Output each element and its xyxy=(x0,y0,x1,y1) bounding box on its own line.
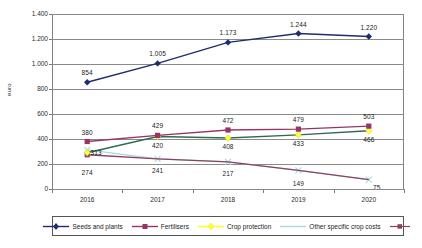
data-label: 149 xyxy=(293,180,304,187)
data-label: 472 xyxy=(222,117,233,124)
data-label: 420 xyxy=(152,142,163,149)
legend-key-diamond-icon xyxy=(43,222,69,231)
data-label: 380 xyxy=(82,129,93,136)
legend-key-line-icon xyxy=(280,222,306,231)
x-tick-label: 2020 xyxy=(343,196,395,203)
y-tick-label: 1.400 xyxy=(4,10,48,17)
series-other-specific-crop-costs xyxy=(84,147,372,183)
data-label: 429 xyxy=(152,122,163,129)
y-tick-label: 600 xyxy=(4,110,48,117)
legend-item[interactable]: Fertilisers xyxy=(132,222,189,231)
chart-legend: Seeds and plants Fertilisers Crop protec… xyxy=(52,216,404,236)
data-label: 217 xyxy=(222,170,233,177)
legend-key-diamond-icon xyxy=(198,222,224,231)
x-tick-label: 2017 xyxy=(132,196,184,203)
legend-item[interactable]: Other specific crop costs xyxy=(280,222,380,231)
data-label: 433 xyxy=(293,140,304,147)
plot-area: 02004006008001.0001.2001.400 20162017201… xyxy=(52,14,404,189)
data-label: 241 xyxy=(152,167,163,174)
data-label: 408 xyxy=(222,143,233,150)
y-tick-label: 800 xyxy=(4,85,48,92)
legend-label: Crop protection xyxy=(227,223,271,230)
data-label: 854 xyxy=(82,69,93,76)
data-label: 1.173 xyxy=(220,29,237,36)
legend-item-unlabeled[interactable] xyxy=(390,222,413,231)
legend-label: Other specific crop costs xyxy=(309,223,380,230)
legend-label: Seeds and plants xyxy=(72,223,122,230)
legend-key-square-icon xyxy=(132,222,158,231)
series-seeds-and-plants xyxy=(84,30,372,85)
y-tick-label: 1.000 xyxy=(4,60,48,67)
data-label: 503 xyxy=(363,113,374,120)
legend-item[interactable]: Crop protection xyxy=(198,222,271,231)
legend-label: Fertilisers xyxy=(161,223,189,230)
y-tick-label: 200 xyxy=(4,160,48,167)
data-label: 1.005 xyxy=(149,50,166,57)
data-label: 479 xyxy=(293,116,304,123)
y-tick-label: 1.200 xyxy=(4,35,48,42)
data-label: 466 xyxy=(363,136,374,143)
data-label: 274 xyxy=(82,169,93,176)
y-tick-label: 0 xyxy=(4,185,48,192)
x-tick-label: 2016 xyxy=(61,196,113,203)
legend-key-square-icon xyxy=(390,222,410,231)
y-tick-label: 400 xyxy=(4,135,48,142)
data-label: 1.220 xyxy=(360,24,377,31)
chart-container: euro 02004006008001.0001.2001.400 201620… xyxy=(0,0,422,248)
data-label: 1.244 xyxy=(290,21,307,28)
legend-item[interactable]: Seeds and plants xyxy=(43,222,122,231)
data-label: 313 xyxy=(91,149,102,156)
series-lines xyxy=(52,14,404,189)
x-tick-label: 2019 xyxy=(272,196,324,203)
x-axis-line xyxy=(52,189,405,190)
x-tick-label: 2018 xyxy=(202,196,254,203)
